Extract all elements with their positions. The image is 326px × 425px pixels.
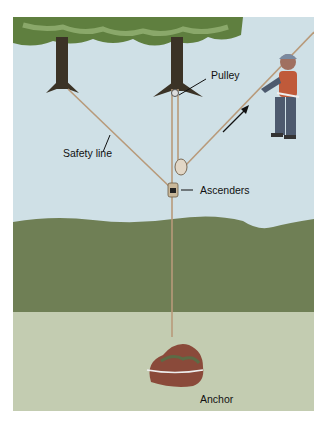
ground-band-dark: [13, 216, 314, 313]
ascenders-device: [168, 183, 178, 197]
diagram-illustration: [13, 17, 314, 411]
pulley-label: Pulley: [211, 69, 240, 81]
anchor-label: Anchor: [200, 393, 233, 405]
ascenders-label: Ascenders: [200, 184, 250, 196]
safety-line-label: Safety line: [63, 147, 112, 159]
lower-pulley: [175, 159, 187, 175]
top-pulley: [172, 90, 179, 97]
diagram-frame: Pulley Safety line Ascenders Anchor: [13, 17, 314, 411]
